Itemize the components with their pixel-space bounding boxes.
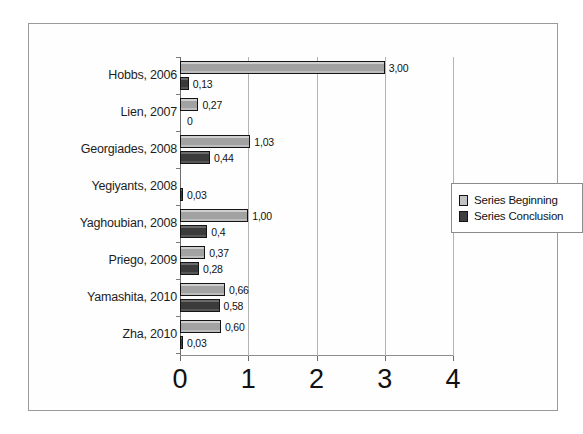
- plot-area: 3,000,130,2701,030,440,031,000,40,370,28…: [180, 57, 453, 353]
- bar-value-label: 0,03: [187, 337, 207, 349]
- axis-tick-label: 2: [299, 364, 335, 395]
- category-label: Yegiyants, 2008: [59, 179, 177, 193]
- bar-series-conclusion: [180, 299, 220, 312]
- bar-value-label: 0,4: [211, 226, 225, 238]
- category-axis-labels: Hobbs, 2006Lien, 2007Georgiades, 2008Yeg…: [55, 57, 177, 353]
- axis-tick: [248, 356, 249, 361]
- bar-series-conclusion: [180, 262, 199, 275]
- axis-tick-label: 3: [367, 364, 403, 395]
- axis-tick: [317, 356, 318, 361]
- bar-series-conclusion: [180, 77, 189, 90]
- value-axis-labels: 01234: [29, 364, 559, 404]
- bar-value-label: 3,00: [389, 62, 409, 74]
- bar-value-label: 0,44: [214, 152, 234, 164]
- bar-value-label: 0,60: [225, 321, 245, 333]
- legend-item-series-conclusion: Series Conclusion: [459, 210, 575, 222]
- bar-series-conclusion: [180, 151, 210, 164]
- bar-series-beginning: [180, 135, 250, 148]
- axis-tick-label: 1: [230, 364, 266, 395]
- bar-value-label: 0: [187, 115, 193, 127]
- bar-series-beginning: [180, 209, 248, 222]
- bar-value-label: 0,28: [203, 263, 223, 275]
- category-label: Lien, 2007: [59, 105, 177, 119]
- bar-value-label: 1,00: [252, 210, 272, 222]
- axis-tick: [453, 356, 454, 361]
- bar-value-label: 0,58: [224, 300, 244, 312]
- bar-value-label: 1,03: [254, 136, 274, 148]
- bar-value-label: 0,27: [202, 99, 222, 111]
- axis-tick-label: 0: [162, 364, 198, 395]
- bar-series-beginning: [180, 61, 385, 74]
- bar-value-label: 0,13: [193, 78, 213, 90]
- category-label: Zha, 2010: [59, 327, 177, 341]
- category-label: Priego, 2009: [59, 253, 177, 267]
- legend-swatch-beginning-icon: [459, 195, 468, 206]
- category-label: Yaghoubian, 2008: [59, 216, 177, 230]
- legend-item-series-beginning: Series Beginning: [459, 194, 575, 206]
- axis-tick-label: 4: [435, 364, 471, 395]
- bar-value-label: 0,37: [209, 247, 229, 259]
- bar-value-label: 0,03: [187, 189, 207, 201]
- chart-legend: Series Beginning Series Conclusion: [451, 183, 583, 233]
- bar-series-beginning: [180, 246, 205, 259]
- bar-series-conclusion: [180, 225, 207, 238]
- bar-series-conclusion: [180, 188, 183, 201]
- legend-swatch-conclusion-icon: [459, 211, 468, 222]
- bar-series-beginning: [180, 283, 225, 296]
- bar-series-beginning: [180, 98, 198, 111]
- category-label: Georgiades, 2008: [59, 142, 177, 156]
- bar-series-beginning: [180, 320, 221, 333]
- axis-tick: [385, 356, 386, 361]
- chart-frame: Hobbs, 2006Lien, 2007Georgiades, 2008Yeg…: [28, 23, 558, 411]
- category-tick: [176, 353, 180, 354]
- category-label: Hobbs, 2006: [59, 68, 177, 82]
- axis-tick: [180, 356, 181, 361]
- bar-series-conclusion: [180, 336, 183, 349]
- legend-label-series-beginning: Series Beginning: [474, 194, 558, 206]
- legend-label-series-conclusion: Series Conclusion: [474, 210, 563, 222]
- bar-value-label: 0,66: [229, 284, 249, 296]
- category-label: Yamashita, 2010: [59, 290, 177, 304]
